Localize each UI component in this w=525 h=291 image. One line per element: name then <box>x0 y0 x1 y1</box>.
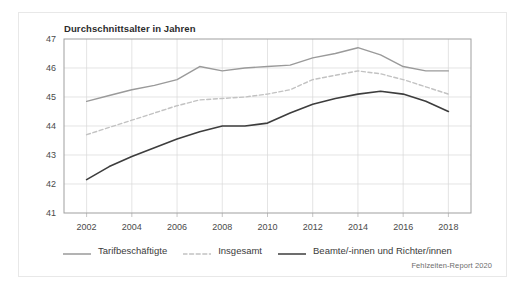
legend-swatch-line-icon <box>63 245 91 255</box>
y-axis-tick-label: 45 <box>46 92 56 102</box>
y-axis-tick-label: 43 <box>46 150 56 160</box>
chart-legend: Tarifbeschäftigte Insgesamt Beamte/-inne… <box>63 241 493 259</box>
x-axis-tick-label: 2008 <box>212 222 232 232</box>
legend-label-2: Beamte/-innen und Richter/innen <box>313 245 452 256</box>
y-axis-tick-label: 47 <box>46 34 56 44</box>
x-axis-tick-label: 2006 <box>167 222 187 232</box>
legend-item-1[interactable]: Insgesamt <box>183 245 262 256</box>
x-axis-tick-label: 2014 <box>348 222 368 232</box>
x-axis-tick-label: 2010 <box>257 222 277 232</box>
legend-item-2[interactable]: Beamte/-innen und Richter/innen <box>278 245 452 256</box>
line-chart-svg: 41424344454647 2002200420062008201020122… <box>19 13 508 278</box>
y-axis-tick-labels: 41424344454647 <box>46 34 56 218</box>
x-axis-tick-labels: 200220042006200820102012201420162018 <box>77 222 459 232</box>
legend-label-0: Tarifbeschäftigte <box>98 245 167 256</box>
plot-area: 41424344454647 2002200420062008201020122… <box>19 13 508 278</box>
y-axis-tick-label: 46 <box>46 63 56 73</box>
y-axis-tick-label: 41 <box>46 208 56 218</box>
x-axis-tick-label: 2012 <box>303 222 323 232</box>
legend-label-1: Insgesamt <box>218 245 262 256</box>
y-axis-tick-label: 42 <box>46 179 56 189</box>
legend-swatch-line-icon <box>278 245 306 255</box>
x-axis-tick-label: 2018 <box>438 222 458 232</box>
legend-item-0[interactable]: Tarifbeschäftigte <box>63 245 167 256</box>
source-note: Fehlzeiten-Report 2020 <box>411 261 492 270</box>
y-axis-tick-label: 44 <box>46 121 56 131</box>
figure-card: Durchschnittsalter in Jahren 41424344454… <box>18 12 507 277</box>
legend-swatch-line-icon <box>183 245 211 255</box>
x-axis-tick-label: 2004 <box>122 222 142 232</box>
x-axis-tick-label: 2016 <box>393 222 413 232</box>
x-axis-tick-label: 2002 <box>77 222 97 232</box>
grid-lines <box>64 39 471 217</box>
